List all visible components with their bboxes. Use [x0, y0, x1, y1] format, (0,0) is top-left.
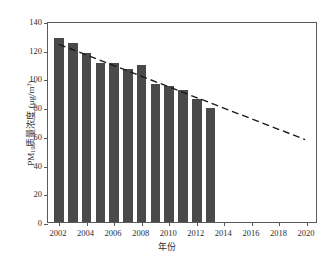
- x-axis-title: 年份: [0, 240, 333, 253]
- x-axis-tick-mark: [114, 222, 115, 226]
- chart-figure: 020406080100120140 PM10质量浓度 (μg/m3) 年份 2…: [0, 0, 333, 263]
- x-axis-tick-mark: [87, 222, 88, 226]
- y-axis-title-prefix: PM: [26, 152, 36, 165]
- x-axis-tick-mark: [197, 222, 198, 226]
- x-axis-tick-mark: [142, 222, 143, 226]
- x-axis-tick-mark: [307, 222, 308, 226]
- y-axis-title-unit: μg/m: [26, 86, 36, 105]
- y-axis-title-wrapper: PM10质量浓度 (μg/m3): [6, 22, 26, 223]
- y-axis-title: PM10质量浓度 (μg/m3): [24, 43, 37, 203]
- y-axis-title-middle: 质量浓度 (: [26, 105, 36, 146]
- y-axis-tick-mark: [44, 224, 48, 225]
- plot-area: [47, 22, 317, 223]
- trend-line: [59, 44, 305, 139]
- x-axis-tick-mark: [279, 222, 280, 226]
- x-axis-tick-mark: [224, 222, 225, 226]
- x-axis-tick-mark: [252, 222, 253, 226]
- x-axis-tick-label: 2020: [286, 229, 326, 238]
- x-axis-tick-mark: [169, 222, 170, 226]
- trend-line-layer: [48, 23, 316, 222]
- x-axis-tick-mark: [59, 222, 60, 226]
- y-axis-title-suffix: ): [26, 80, 36, 83]
